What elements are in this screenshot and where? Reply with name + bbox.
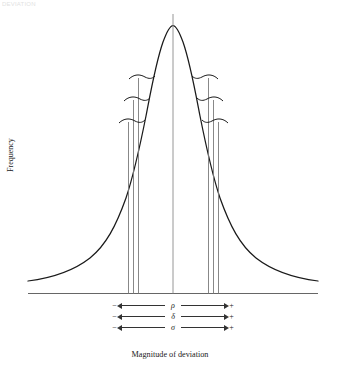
scale-row-rho: − ρ + — [110, 300, 236, 311]
curve-tick-left-sigma — [119, 119, 145, 123]
x-axis-label: Magnitude of deviation — [0, 349, 340, 361]
scale-arrow-right-rho — [181, 305, 224, 306]
scale-plus-sign-delta: + — [227, 311, 236, 322]
curve-tick-left-rho — [129, 75, 155, 79]
scale-arrow-right-delta — [181, 316, 224, 317]
scale-arrow-right-sigma — [181, 327, 224, 328]
scale-plus-sign-sigma: + — [227, 322, 236, 333]
y-axis-label: Frequency — [4, 125, 18, 185]
scale-row-sigma: − σ + — [110, 322, 236, 333]
scale-plus-sign-rho: + — [227, 300, 236, 311]
curve-tick-right-rho — [192, 75, 218, 79]
scale-row-delta: − δ + — [110, 311, 236, 322]
curve-tick-right-sigma — [202, 119, 228, 123]
curve-tick-right-delta — [197, 97, 223, 101]
curve-tick-left-delta — [124, 97, 150, 101]
figure-root: DEVIATION — [0, 0, 340, 372]
